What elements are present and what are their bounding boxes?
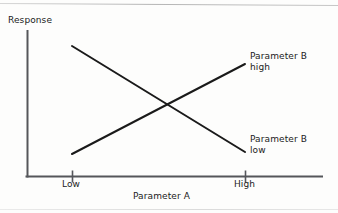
series-label-parameter-b-low: Parameter B low — [250, 134, 307, 156]
x-axis-title: Parameter A — [133, 191, 190, 202]
series-line-parameter-b-low — [72, 46, 245, 152]
series-label-parameter-b-high: Parameter B high — [250, 51, 307, 73]
series-label-low-line2: low — [250, 145, 307, 156]
series-label-high-line2: high — [250, 62, 307, 73]
interaction-plot-figure: Response Parameter A Low High Parameter … — [0, 0, 338, 213]
plot-canvas — [0, 0, 338, 213]
y-axis-title: Response — [8, 15, 52, 26]
series-label-high-line1: Parameter B — [250, 51, 307, 62]
series-label-low-line1: Parameter B — [250, 134, 307, 145]
series-line-parameter-b-high — [72, 64, 245, 154]
x-tick-label-high: High — [234, 179, 255, 190]
x-tick-label-low: Low — [62, 179, 80, 190]
